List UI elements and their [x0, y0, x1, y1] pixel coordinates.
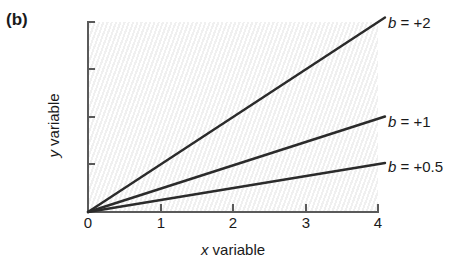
x-tick-1: [160, 204, 162, 211]
x-axis-title: x variable: [88, 241, 378, 258]
panel-label: (b): [6, 10, 28, 30]
series-label-b-1-value: = +1: [396, 113, 430, 130]
y-tick-6: [89, 68, 95, 70]
y-axis-title: y variable: [45, 31, 62, 221]
series-label-b-05-value: = +0.5: [396, 158, 443, 175]
y-axis-title-symbol: y: [45, 150, 62, 158]
y-tick-4: [89, 116, 95, 118]
figure-panel-b: (b) 0 2 4 6 8 0 1 2 3 4 b = +2 b = +1 b …: [0, 0, 461, 272]
y-tick-2: [89, 163, 95, 165]
series-label-b-05: b = +0.5: [388, 158, 443, 175]
x-tick-label-4: 4: [366, 214, 390, 231]
series-label-b-1: b = +1: [388, 113, 431, 130]
y-tick-8: [89, 21, 95, 23]
x-tick-4: [377, 204, 379, 211]
x-tick-label-0: 0: [76, 214, 100, 231]
y-axis-title-rest: variable: [45, 93, 62, 150]
x-tick-label-3: 3: [294, 214, 318, 231]
series-label-b-2: b = +2: [388, 14, 431, 31]
y-tick-0: [89, 211, 95, 213]
plot-area: [88, 22, 378, 212]
x-tick-label-1: 1: [149, 214, 173, 231]
plot-hatch-background: [88, 22, 378, 212]
x-tick-2: [232, 204, 234, 211]
x-axis-line: [87, 211, 379, 213]
series-label-b-2-value: = +2: [396, 14, 430, 31]
x-tick-label-2: 2: [221, 214, 245, 231]
x-axis-title-rest: variable: [208, 241, 265, 258]
x-tick-3: [305, 204, 307, 211]
x-tick-0: [87, 204, 89, 211]
